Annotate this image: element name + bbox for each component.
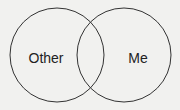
- venn-diagram: [0, 0, 180, 110]
- label-other: Other: [28, 50, 63, 66]
- label-me: Me: [128, 50, 147, 66]
- circle-me: [77, 8, 171, 102]
